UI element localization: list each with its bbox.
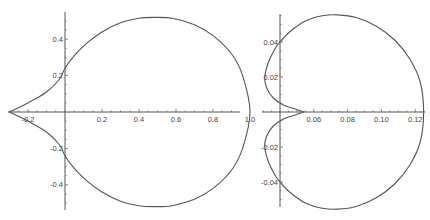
x-tick-label: 0.4 (134, 115, 144, 124)
chart-canvas: -0.20.20.40.60.81.0-0.4-0.20.20.4 0.060.… (0, 0, 430, 220)
x-tick-label: 0.8 (208, 115, 218, 124)
y-tick-label: -0.02 (261, 143, 278, 152)
x-tick-label: 0.2 (97, 115, 107, 124)
y-tick-label: -0.04 (261, 178, 278, 187)
x-tick-label: 0.08 (340, 115, 355, 124)
y-tick-label: -0.4 (50, 180, 63, 189)
right-chart: 0.060.080.100.12-0.04-0.020.020.04 (261, 14, 425, 209)
y-tick-label: 0.04 (263, 38, 278, 47)
x-tick-label: 0.06 (306, 115, 321, 124)
x-tick-label: 0.12 (408, 115, 423, 124)
x-tick-label: 0.10 (374, 115, 389, 124)
x-tick-label: 0.6 (171, 115, 181, 124)
left-chart: -0.20.20.40.60.81.0-0.4-0.20.20.4 (8, 12, 255, 210)
x-tick-label: -0.2 (22, 115, 35, 124)
y-tick-label: 0.4 (53, 35, 63, 44)
